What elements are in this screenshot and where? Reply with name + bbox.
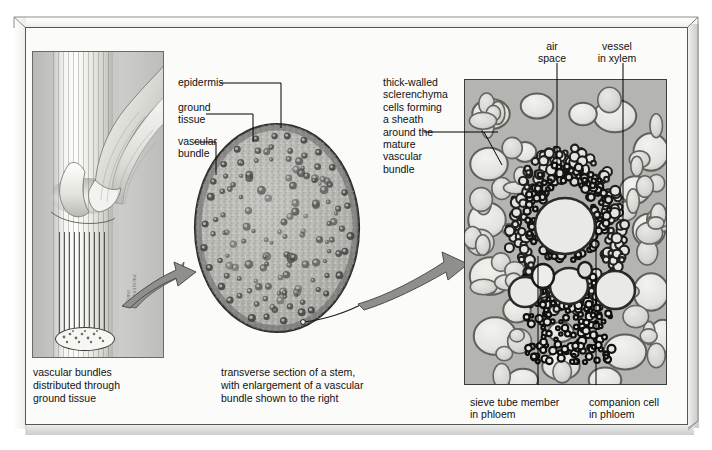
sieve-l2: in phloem	[470, 408, 516, 420]
scl-l2: sclerenchyma	[383, 88, 448, 100]
label-sclerenchyma-sheath: thick-walledsclerenchymacells forminga s…	[383, 76, 448, 175]
capL3: ground tissue	[33, 392, 96, 404]
capL1: vascular bundles	[33, 366, 112, 378]
comp-l1: companion cell	[589, 396, 659, 408]
comp-l2: in phloem	[589, 408, 635, 420]
scl-l3: cells forming	[383, 101, 442, 113]
scl-l7: vascular	[383, 150, 422, 162]
scl-l6: mature	[383, 138, 416, 150]
scl-l4: a sheath	[383, 113, 423, 125]
label-vascular-bundle: vascular bundle	[178, 135, 217, 160]
scl-l8: bundle	[383, 163, 415, 175]
scl-l1: thick-walled	[383, 76, 438, 88]
capC3: bundle shown to the right	[221, 392, 338, 404]
label-sieve-tube-member: sieve tube memberin phloem	[470, 396, 559, 421]
capC2: with enlargement of a vascular	[221, 379, 363, 391]
label-vessel-in-xylem-l1: vessel	[602, 40, 632, 52]
caption-center-panel: transverse section of a stem,with enlarg…	[221, 366, 363, 405]
caption-left-panel: vascular bundlesdistributed throughgroun…	[33, 366, 120, 405]
label-companion-cell: companion cellin phloem	[589, 396, 659, 421]
label-air-space-l1: air	[546, 40, 558, 52]
label-air-space: airspace	[530, 40, 574, 65]
cut-surface-bundle-dots	[55, 327, 113, 349]
capC1: transverse section of a stem,	[221, 366, 355, 378]
scl-l5: around the	[383, 126, 433, 138]
label-vessel-in-xylem-l2: in xylem	[598, 52, 637, 64]
figure-root: Tomo Narashima	[0, 0, 712, 450]
sieve-l1: sieve tube member	[470, 396, 559, 408]
label-ground-tissue: ground tissue	[178, 101, 211, 126]
label-vessel-in-xylem: vesselin xylem	[588, 40, 646, 65]
capL2: distributed through	[33, 379, 120, 391]
label-epidermis: epidermis	[178, 76, 224, 88]
label-air-space-l2: space	[538, 52, 566, 64]
